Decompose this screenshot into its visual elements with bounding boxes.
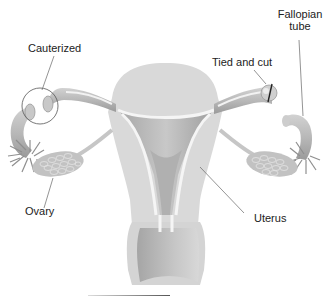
label-tied-and-cut: Tied and cut — [212, 56, 272, 68]
left-ovary — [30, 130, 112, 180]
tied-and-cut-leader — [254, 70, 266, 84]
cauterized-leader — [42, 56, 54, 90]
uterus-leader — [200, 167, 244, 213]
tubal-ligation-diagram: Cauterized Tied and cut Fallopian tube O… — [0, 0, 326, 297]
label-ovary: Ovary — [25, 205, 54, 217]
fallopian-tube-leader — [299, 40, 303, 116]
label-fallopian-tube-line2: tube — [276, 20, 324, 32]
label-uterus: Uterus — [254, 212, 286, 224]
label-fallopian-tube-line1: Fallopian — [276, 8, 324, 20]
cervix — [127, 215, 205, 285]
ovary-leader — [44, 178, 53, 208]
label-cauterized: Cauterized — [28, 42, 81, 54]
bottom-divider — [88, 295, 170, 296]
right-ovary — [220, 130, 300, 180]
label-fallopian-tube: Fallopian tube — [276, 8, 324, 32]
uterus-body — [108, 63, 222, 225]
